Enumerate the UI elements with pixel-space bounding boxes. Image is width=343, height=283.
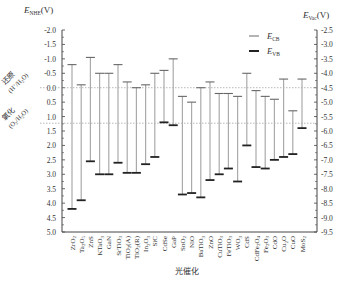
- svg-text:ENHE(V): ENHE(V): [23, 5, 53, 16]
- right-axis-tick-label: -6.5: [321, 141, 333, 150]
- legend-label: EVB: [266, 46, 280, 57]
- x-axis-tick-label: ZnS: [87, 236, 95, 248]
- band-bar: [123, 82, 132, 173]
- legend-label: ECB: [266, 31, 280, 42]
- x-axis-tick-label: BaTiO3: [197, 236, 206, 258]
- band-bar: [270, 99, 279, 160]
- x-axis-tick-label: KTaO3: [96, 236, 105, 256]
- band-bar: [95, 73, 104, 174]
- x-axis-tick-label: CdO: [271, 236, 279, 249]
- band-bar: [233, 96, 242, 181]
- band-bar: [196, 88, 205, 198]
- band-bar: [206, 82, 215, 180]
- band-bar: [77, 85, 86, 200]
- x-axis-tick-label: GaN: [105, 236, 113, 249]
- right-axis-tick-label: -2.5: [321, 26, 333, 35]
- right-axis-tick-label: -8.0: [321, 185, 333, 194]
- x-axis-labels: ZrO2Ta2O5ZnSKTaO3GaNSrTiO3TiO2(A)TiO2(R)…: [69, 235, 308, 261]
- left-axis-tick-label: -0.5: [44, 69, 56, 78]
- right-axis-tick-label: -5.5: [321, 113, 333, 122]
- x-axis-tick-label: ZnO: [207, 236, 215, 249]
- right-axis-title: EVac(V): [302, 10, 329, 21]
- left-axis-tick-label: 5.0: [47, 228, 57, 237]
- band-bar: [114, 65, 123, 163]
- reference-line-label: 氧化(O2/H2O): [0, 99, 30, 131]
- left-axis-tick-label: 0.5: [47, 98, 57, 107]
- right-axis-tick-label: -8.5: [321, 199, 333, 208]
- band-bar: [215, 93, 224, 174]
- x-axis-tick-label: Cu2O: [280, 236, 289, 252]
- band-bar: [160, 70, 169, 122]
- band-bar: [224, 93, 233, 168]
- band-bar: [261, 96, 270, 168]
- x-axis-title: 光催化: [175, 266, 199, 276]
- band-bar: [288, 111, 297, 154]
- x-axis-tick-label: TiO2(A): [124, 235, 133, 259]
- x-axis-tick-label: Ta2O5: [78, 236, 87, 253]
- x-axis-tick-label: CdFe2O4: [253, 236, 262, 262]
- right-axis-tick-label: -7.0: [321, 156, 333, 165]
- x-axis-tick-label: CdS: [243, 236, 251, 248]
- x-axis-tick-label: WO3: [234, 236, 243, 251]
- right-axis-tick-label: -9.0: [321, 214, 333, 223]
- band-bar: [86, 57, 95, 161]
- right-axis-tick-label: -9.5: [321, 228, 333, 237]
- x-axis-tick-label: ZrO2: [69, 236, 78, 251]
- left-axis-tick-label: 4.0: [47, 199, 57, 208]
- svg-text:EVac(V): EVac(V): [302, 10, 329, 21]
- x-axis-tick-label: NiO: [188, 236, 196, 248]
- band-bars: [68, 57, 307, 209]
- left-axis-tick-label: -1.0: [44, 55, 56, 64]
- left-axis-tick-label: -2.0: [44, 26, 56, 35]
- left-axis-tick-label: 2.5: [47, 156, 57, 165]
- right-axis-tick-label: -3.0: [321, 40, 333, 49]
- right-axis-tick-label: -6.0: [321, 127, 333, 136]
- band-bar: [104, 73, 113, 174]
- x-axis-tick-label: MoS2: [299, 236, 308, 253]
- band-bar: [279, 79, 288, 157]
- band-bar: [68, 65, 77, 209]
- band-bar: [252, 91, 261, 167]
- band-bar: [141, 85, 150, 164]
- left-axis-tick-label: 0.0: [47, 84, 57, 93]
- x-axis-tick-label: CuTiO3: [216, 236, 225, 258]
- x-axis-tick-label: In2O3: [142, 236, 151, 252]
- band-bar: [242, 73, 251, 145]
- reference-line-label: 还原(H+/H2O): [0, 63, 30, 95]
- band-bar: [187, 102, 196, 193]
- x-axis-tick-label: CuO: [289, 236, 297, 249]
- x-axis-tick-label: TiO2(R): [133, 235, 142, 259]
- x-axis-tick-label: CdSe: [161, 236, 169, 251]
- right-axis-tick-label: -4.0: [321, 69, 333, 78]
- left-axis-tick-label: 2.0: [47, 141, 57, 150]
- left-axis-tick-label: 3.0: [47, 170, 57, 179]
- band-edge-chart: ENHE(V) EVac(V) -2.0-1.5-1.0-0.50.00.51.…: [0, 0, 343, 283]
- left-axis-tick-label: 1.0: [47, 113, 57, 122]
- x-axis-tick-label: FeTiO3: [225, 236, 234, 257]
- left-axis-tick-label: -1.5: [44, 40, 56, 49]
- right-axis-tick-label: -3.5: [321, 55, 333, 64]
- right-axis-tick-label: -4.5: [321, 84, 333, 93]
- x-axis-tick-label: SiC: [151, 236, 159, 247]
- x-axis-tick-label: SrTiO3: [115, 236, 124, 256]
- right-axis-tick-label: -5.0: [321, 98, 333, 107]
- chart-canvas: ENHE(V) EVac(V) -2.0-1.5-1.0-0.50.00.51.…: [0, 0, 343, 283]
- band-bar: [132, 88, 141, 173]
- x-axis-tick-label: Fe2O3: [262, 236, 271, 254]
- band-bar: [169, 59, 178, 125]
- right-axis-tick-label: -7.5: [321, 170, 333, 179]
- left-axis-tick-label: 4.5: [47, 214, 57, 223]
- band-bar: [178, 96, 187, 194]
- left-axis-tick-label: 3.5: [47, 185, 57, 194]
- x-axis-tick-label: SnO2: [179, 236, 188, 251]
- band-bar: [150, 73, 159, 157]
- band-bar: [298, 79, 307, 128]
- legend: ECBEVB: [249, 31, 280, 57]
- left-axis-tick-label: 1.5: [47, 127, 57, 136]
- x-axis-tick-label: GaP: [170, 236, 178, 248]
- left-axis-title: ENHE(V): [23, 5, 53, 16]
